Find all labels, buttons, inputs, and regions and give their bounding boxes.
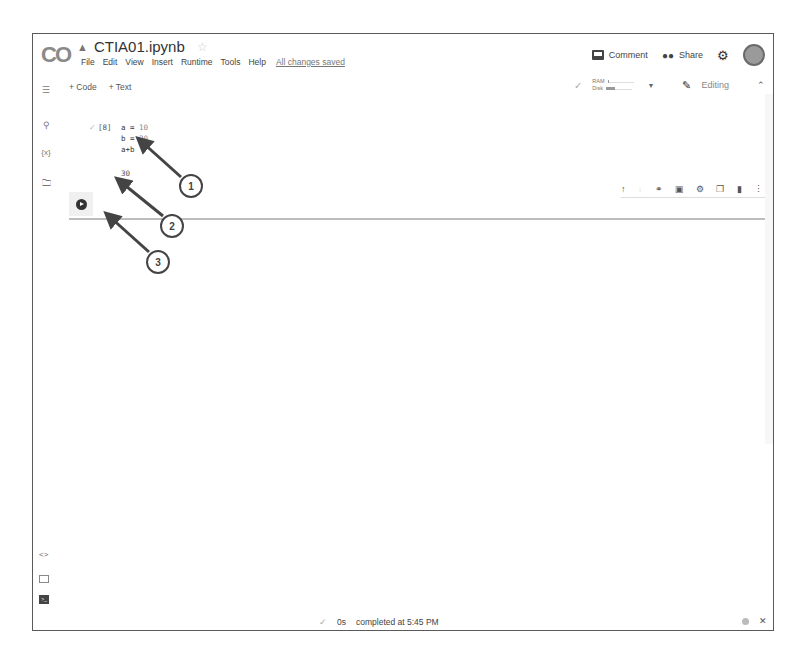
ram-meter: RAM [592,78,633,85]
command-palette-icon[interactable] [39,575,49,583]
status-check-icon: ✓ [319,617,327,627]
code-line: a+b [121,144,148,155]
collapse-header-icon[interactable]: ⌃ [757,80,765,90]
ram-label: RAM [592,78,604,85]
move-down-icon[interactable]: ↓ [638,184,643,194]
pencil-icon[interactable]: ✎ [682,79,691,92]
close-icon[interactable]: ✕ [759,616,767,626]
execution-duration: 0s [337,617,346,627]
connected-check-icon: ✓ [574,80,582,91]
link-icon[interactable]: ⚭ [655,184,663,194]
runtime-dropdown-icon[interactable]: ▼ [648,82,655,89]
avatar[interactable] [743,44,765,66]
mirror-cell-icon[interactable]: ❐ [716,184,724,194]
colab-logo[interactable]: CO [41,42,70,68]
menu-bar: File Edit View Insert Runtime Tools Help… [81,57,345,67]
code-line: b = 20 [121,133,148,144]
callout-2: 2 [160,214,184,238]
more-options-icon[interactable]: ⋮ [754,184,763,194]
add-code-button[interactable]: + Code [69,82,97,92]
search-icon[interactable]: ⚲ [39,120,53,130]
people-icon: ●● [662,50,674,61]
status-right: ✕ [742,616,767,626]
menu-tools[interactable]: Tools [221,57,241,67]
comment-button[interactable]: Comment [592,50,648,60]
add-text-button[interactable]: + Text [109,82,132,92]
move-up-icon[interactable]: ↑ [621,184,626,194]
menu-edit[interactable]: Edit [103,57,118,67]
notebook-title[interactable]: CTIA01.ipynb [94,38,185,55]
menu-insert[interactable]: Insert [152,57,173,67]
terminal-icon[interactable]: >_ [39,595,49,604]
resource-meters[interactable]: RAM Disk [592,78,633,92]
share-button[interactable]: ●● Share [662,50,703,61]
settings-gear-icon[interactable]: ⚙ [717,48,729,63]
cell-toolbar: ↑ ↓ ⚭ ▣ ⚙ ❐ ▮ ⋮ [621,184,767,198]
disk-label: Disk [592,85,603,92]
status-indicator-icon [742,618,749,625]
code-snippets-icon[interactable]: <> [39,550,48,559]
delete-icon[interactable]: ▮ [737,184,742,194]
status-bar: ✓ 0s completed at 5:45 PM [319,617,439,627]
colab-window: CO ▲ CTIA01.ipynb ☆ File Edit View Inser… [32,33,774,631]
variables-icon[interactable]: {x} [39,148,53,157]
editing-mode-label[interactable]: Editing [701,80,729,90]
title-row: ▲ CTIA01.ipynb ☆ [77,38,208,55]
callout-3: 3 [146,250,170,274]
callout-1: 1 [179,174,203,198]
status-message[interactable]: completed at 5:45 PM [356,617,439,627]
drive-icon[interactable]: ▲ [77,41,88,53]
runtime-resources: ✓ RAM Disk ▼ ✎ Editing ⌃ [574,78,765,92]
cell-run-status-check-icon: ✓ [89,123,96,132]
header-actions: Comment ●● Share ⚙ [592,44,765,66]
run-cell-button[interactable] [69,192,93,216]
cell-output: 30 [121,169,130,178]
menu-help[interactable]: Help [248,57,265,67]
save-status-link[interactable]: All changes saved [276,57,345,67]
code-editor[interactable]: a = 10b = 20a+b [121,122,148,155]
play-icon [76,199,87,210]
cell-settings-icon[interactable]: ⚙ [696,184,704,194]
menu-runtime[interactable]: Runtime [181,57,213,67]
table-of-contents-icon[interactable]: ☰ [39,85,53,95]
folder-icon[interactable]: 🗀 [39,176,53,192]
disk-meter: Disk [592,85,633,92]
star-icon[interactable]: ☆ [197,40,208,54]
comment-icon [592,50,604,60]
toolbar: + Code + Text [69,82,131,92]
execution-count: [8] [98,123,112,132]
code-line: a = 10 [121,122,148,133]
menu-file[interactable]: File [81,57,95,67]
comment-cell-icon[interactable]: ▣ [675,184,684,194]
comment-label: Comment [609,50,648,60]
scrollbar[interactable] [765,94,773,444]
menu-view[interactable]: View [125,57,143,67]
share-label: Share [679,50,703,60]
